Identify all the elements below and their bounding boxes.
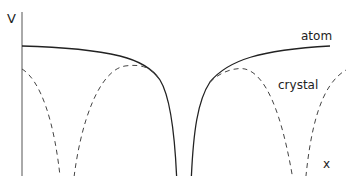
atom-label: atom [301, 30, 332, 42]
atom-potential-curve [22, 46, 177, 176]
crystal-label: crystal [278, 79, 318, 91]
crystal-potential-curve-middle-left [73, 65, 160, 176]
x-axis-label: x [323, 158, 330, 170]
atom-potential-curve-right [191, 46, 330, 176]
crystal-potential-curve-left [22, 69, 61, 176]
y-axis-label: V [7, 12, 16, 25]
